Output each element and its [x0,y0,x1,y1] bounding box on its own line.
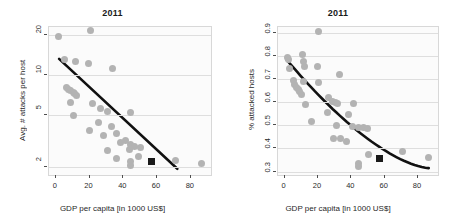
y-axis-tick-label: 0.7 [264,69,272,79]
x-axis-tick-mark [190,175,191,178]
x-axis-tick-label: 20 [84,181,92,190]
data-point [286,65,293,72]
data-point [198,160,205,167]
y-axis-tick-mark [273,55,276,56]
panel-title-left: 2011 [0,8,225,18]
gridline [49,75,211,76]
data-point [314,63,321,70]
highlighted-data-point [148,158,155,165]
data-point [285,56,292,63]
y-axis-tick-mark [273,32,276,33]
figure-container: 2011 Avg. # attacks per host GDP per cap… [0,0,451,221]
x-axis-tick-mark [417,175,418,178]
data-point [95,119,102,126]
x-axis-tick-mark [89,175,90,178]
y-axis-tick-mark [273,78,276,79]
data-point [117,139,124,146]
data-point [172,157,179,164]
gridline [278,148,438,149]
data-point [137,144,144,151]
x-axis-tick-label: 40 [118,181,126,190]
data-point [108,123,115,130]
x-axis-tick-label: 80 [186,181,194,190]
data-point [302,101,309,108]
y-axis-tick-label: 20 [35,25,43,33]
data-point [315,79,322,86]
y-axis-tick-label: 10 [35,65,43,73]
data-point [355,163,362,170]
x-axis-tick-mark [122,175,123,178]
data-point [104,108,111,115]
data-point [127,162,134,169]
y-axis-tick-mark [44,74,47,75]
data-point [301,63,308,70]
gridline [278,33,438,34]
x-axis-tick-label: 60 [380,181,388,190]
x-axis-tick-label: 0 [53,181,57,190]
data-point [67,99,74,106]
y-axis-tick-label: 0.3 [264,162,272,172]
data-point [425,154,432,161]
data-point [72,58,79,65]
x-axis-tick-mark [284,175,285,178]
y-axis-tick-mark [273,171,276,172]
data-point [333,122,340,129]
x-axis-tick-mark [350,175,351,178]
y-axis-tick-mark [273,147,276,148]
y-axis-tick-label: 0.5 [264,115,272,125]
data-point [336,71,343,78]
x-axis-tick-mark [55,175,56,178]
data-point [89,100,96,107]
x-axis-tick-label: 80 [413,181,421,190]
data-point [61,56,68,63]
x-axis-title-left: GDP per capita [in 1000 US$] [0,204,225,213]
y-axis-tick-label: 0.8 [264,46,272,56]
x-axis-tick-label: 0 [282,181,286,190]
data-point [100,132,107,139]
data-point [334,100,341,107]
highlighted-data-point [376,155,383,162]
data-point [97,105,104,112]
y-axis-tick-label: 2 [35,157,43,161]
y-axis-tick-mark [44,166,47,167]
data-point [315,28,322,35]
data-point [86,127,93,134]
y-axis-tick-label: 0.6 [264,92,272,102]
y-axis-title-left: Avg. # attacks per host [18,26,27,174]
data-point [113,155,120,162]
y-axis-tick-mark [44,34,47,35]
data-point [399,148,406,155]
data-point [298,91,305,98]
gridline [278,172,438,173]
x-axis-title-right: GDP per capita [in 1000 US$] [225,204,451,213]
data-point [87,27,94,34]
plot-area-left [48,26,212,176]
x-axis-tick-label: 40 [346,181,354,190]
x-axis-tick-mark [317,175,318,178]
data-point [104,147,111,154]
data-point [364,125,371,132]
x-axis-tick-mark [384,175,385,178]
panel-title-right: 2011 [225,8,451,18]
panel-pct-attacked-hosts: 2011 % attacked hosts GDP per capita [in… [225,0,451,221]
data-point [308,118,315,125]
y-axis-tick-mark [44,114,47,115]
plot-area-right [277,26,439,176]
gridline [49,35,211,36]
y-axis-title-right: % attacked hosts [247,26,256,174]
data-point [135,153,142,160]
data-point [345,111,352,118]
data-point [343,138,350,145]
x-axis-tick-label: 60 [152,181,160,190]
data-point [113,130,120,137]
panel-avg-attacks-per-host: 2011 Avg. # attacks per host GDP per cap… [0,0,225,221]
data-point [109,65,116,72]
x-axis-tick-mark [156,175,157,178]
data-point [300,78,307,85]
y-axis-tick-label: 0.4 [264,138,272,148]
y-axis-tick-label: 0.9 [264,23,272,33]
data-point [55,33,62,40]
data-point [365,151,372,158]
data-point [85,60,92,67]
y-axis-tick-mark [273,124,276,125]
